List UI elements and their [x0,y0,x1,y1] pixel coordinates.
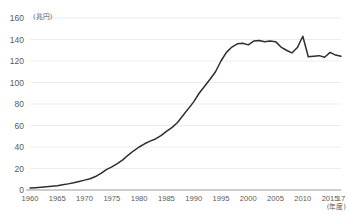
x-tick-label: 17 [337,194,345,203]
y-tick-label: 20 [15,164,25,174]
y-tick-label: 80 [15,99,25,109]
x-tick-label: 1985 [158,194,175,203]
x-tick-label: 2000 [240,194,257,203]
y-tick-label: 140 [10,35,24,45]
x-tick-label: 1995 [213,194,230,203]
y-tick-label: 40 [15,142,25,152]
chart-container: 160140120100806040200 196019651970197519… [0,0,348,218]
data-series-line [30,36,341,188]
y-axis-unit-label: (兆円) [33,12,53,21]
x-tick-label: 1970 [76,194,93,203]
gridlines-group [30,18,341,169]
x-tick-label: 2010 [294,194,311,203]
x-tick-label: 1975 [103,194,120,203]
y-tick-label: 100 [10,78,24,88]
x-tick-label: 1965 [49,194,66,203]
y-axis-tick-labels: 160140120100806040200 [10,13,24,195]
y-tick-label: 160 [10,13,24,23]
x-axis-tick-labels: 1960196519701975198019851990199520002005… [22,194,346,203]
x-tick-label: 1960 [22,194,39,203]
y-tick-label: 120 [10,56,24,66]
line-chart-svg: 160140120100806040200 196019651970197519… [0,0,348,218]
x-axis-unit-label: (年度) [327,202,347,211]
x-tick-label: 1990 [185,194,202,203]
y-tick-label: 60 [15,121,25,131]
x-tick-label: 1980 [131,194,148,203]
x-tick-label: 2005 [267,194,284,203]
